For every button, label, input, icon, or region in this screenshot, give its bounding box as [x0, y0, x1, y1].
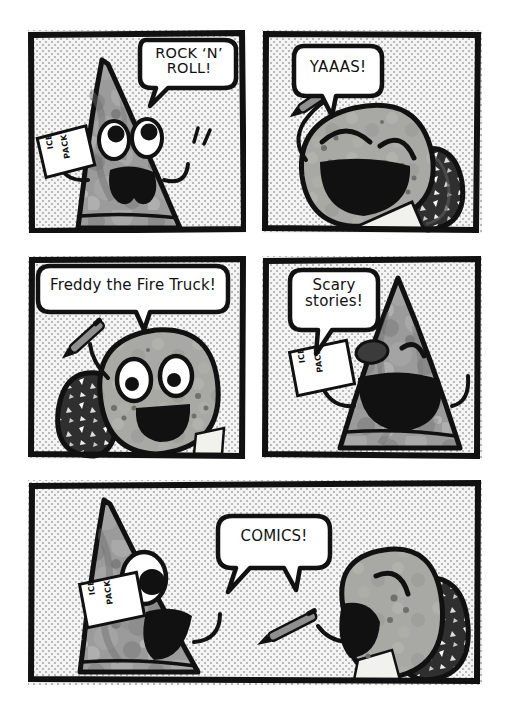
comic-panel-1: ROCK ‘N’ ROLL! ICE PACK: [28, 30, 246, 233]
comic-panel-4: Scary stories! ICE PACK: [262, 256, 482, 459]
panel-4-artwork: [262, 256, 482, 459]
comic-panel-3: Freddy the Fire Truck!: [28, 256, 246, 459]
comic-panel-5: COMICS! ICE PACK: [28, 480, 482, 685]
comic-panel-2: YAAAS!: [262, 30, 482, 233]
panel-5-artwork: [28, 480, 482, 685]
panel-2-artwork: [262, 30, 482, 233]
comic-page: ROCK ‘N’ ROLL! ICE PACK: [0, 0, 509, 715]
panel-3-artwork: [28, 256, 246, 459]
panel-1-artwork: [28, 30, 246, 233]
